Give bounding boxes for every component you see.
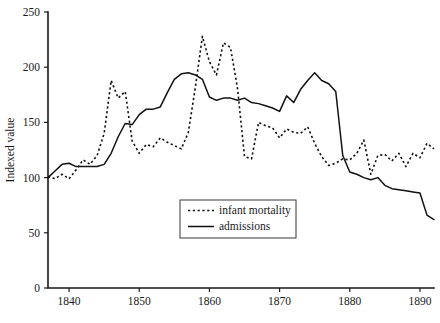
- x-tick-label: 1840: [58, 295, 81, 307]
- axis-lines: [48, 12, 434, 288]
- y-axis-ticks: 050100150200250: [23, 6, 48, 294]
- chart-container: Indexed value 050100150200250 1840185018…: [0, 0, 440, 323]
- x-axis-ticks: 184018501860187018801890: [58, 288, 432, 307]
- series-layer: [48, 36, 434, 219]
- y-tick-label: 0: [34, 282, 40, 294]
- series-line-admissions: [48, 73, 434, 220]
- line-chart: Indexed value 050100150200250 1840185018…: [0, 0, 440, 323]
- y-tick-label: 250: [23, 6, 41, 18]
- y-axis-title-group: Indexed value: [4, 118, 16, 183]
- legend-label-infant-mortality: infant mortality: [219, 204, 291, 217]
- y-tick-label: 150: [23, 116, 41, 128]
- x-tick-label: 1890: [408, 295, 431, 307]
- y-axis-title: Indexed value: [4, 118, 16, 183]
- x-tick-label: 1870: [268, 295, 291, 307]
- chart-legend: infant mortalityadmissions: [180, 200, 296, 238]
- x-tick-label: 1860: [198, 295, 221, 307]
- y-tick-label: 200: [23, 61, 41, 73]
- y-tick-label: 50: [29, 227, 41, 239]
- series-line-infant-mortality: [48, 36, 434, 178]
- legend-label-admissions: admissions: [219, 220, 271, 232]
- x-tick-label: 1850: [128, 295, 151, 307]
- x-tick-label: 1880: [338, 295, 361, 307]
- y-tick-label: 100: [23, 172, 41, 184]
